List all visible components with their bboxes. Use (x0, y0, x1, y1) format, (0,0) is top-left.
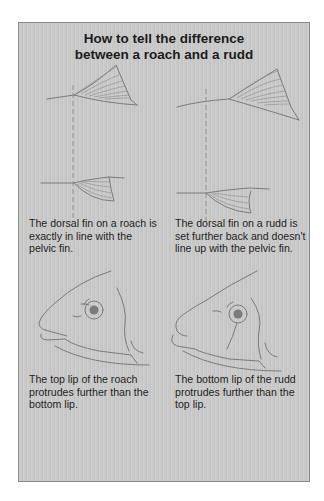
rudd-pelvic-fin-icon (177, 188, 269, 213)
roach-dorsal-fin-icon (47, 65, 137, 105)
roach-dorsal-caption: The dorsal fin on a roach is exactly in … (29, 217, 161, 255)
rudd-dorsal-caption: The dorsal fin on a rudd is set further … (175, 217, 307, 255)
roach-pelvic-fin-icon (41, 177, 124, 201)
rudd-lip-caption: The bottom lip of the rudd protrudes fur… (175, 373, 307, 411)
roach-lip-caption: The top lip of the roach protrudes furth… (29, 373, 161, 411)
roach-head-icon (39, 271, 149, 365)
rudd-dorsal-fin-icon (177, 69, 299, 120)
infographic-panel: How to tell the difference between a roa… (18, 22, 310, 482)
rudd-head-icon (172, 271, 281, 371)
